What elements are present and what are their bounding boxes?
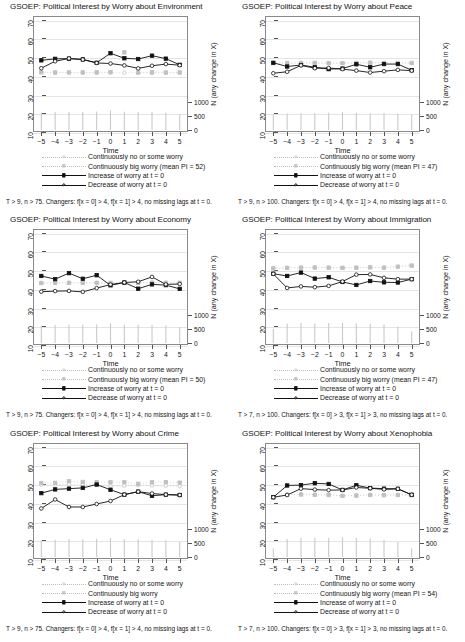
right-tick-mark bbox=[420, 343, 424, 344]
right-tick-mark bbox=[420, 329, 424, 330]
x-tick-label: 0 bbox=[109, 565, 113, 572]
x-tick-mark bbox=[152, 345, 153, 349]
chart-panel: GSOEP: Political Interest by Worry about… bbox=[232, 0, 464, 214]
x-tick-mark bbox=[97, 132, 98, 136]
x-tick-label: −2 bbox=[79, 351, 87, 358]
x-tick-mark bbox=[315, 345, 316, 349]
legend-item-continuously-no-or-some-worry: Continuously no or some worry bbox=[272, 579, 462, 588]
x-tick-mark bbox=[166, 132, 167, 136]
x-tick-mark bbox=[398, 559, 399, 563]
x-tick-label: 4 bbox=[164, 565, 168, 572]
panel-title: GSOEP: Political Interest by Worry about… bbox=[242, 215, 464, 224]
legend-label: Continuously big worry (mean PI = 54) bbox=[320, 590, 437, 597]
legend-key-icon bbox=[40, 598, 88, 607]
right-tick-label: 0 bbox=[426, 340, 430, 347]
x-tick-label: 0 bbox=[341, 351, 345, 358]
legend-item-continuously-big-worry: Continuously big worry (mean PI = 47) bbox=[272, 161, 462, 170]
legend-key-icon bbox=[40, 589, 88, 598]
x-tick-label: 1 bbox=[354, 565, 358, 572]
x-tick-mark bbox=[370, 559, 371, 563]
legend-key-icon bbox=[272, 384, 320, 393]
x-tick-label: 3 bbox=[150, 138, 154, 145]
chart-panel: GSOEP: Political Interest by Worry about… bbox=[232, 427, 464, 641]
legend-label: Decrease of worry at t = 0 bbox=[88, 394, 167, 401]
right-tick-label: 500 bbox=[194, 540, 205, 547]
x-tick-label: −3 bbox=[65, 351, 73, 358]
x-tick-label: −3 bbox=[65, 138, 73, 145]
legend-item-decrease-of-worry: Decrease of worry at t = 0 bbox=[40, 393, 230, 402]
legend: Continuously no or some worryContinuousl… bbox=[40, 365, 230, 403]
legend-key-icon bbox=[40, 180, 88, 189]
panel-title: GSOEP: Political Interest by Worry about… bbox=[10, 2, 232, 11]
right-tick-mark bbox=[188, 315, 192, 316]
right-tick-mark bbox=[188, 343, 192, 344]
right-axis-label: N (any change in X) bbox=[206, 16, 220, 132]
right-axis-label-text: N (any change in X) bbox=[441, 469, 450, 533]
legend-label: Increase of worry at t = 0 bbox=[320, 385, 396, 392]
x-tick-mark bbox=[69, 345, 70, 349]
legend-key-icon bbox=[40, 152, 88, 161]
legend-item-increase-of-worry: Increase of worry at t = 0 bbox=[272, 384, 462, 393]
legend-label: Increase of worry at t = 0 bbox=[320, 172, 396, 179]
right-tick-mark bbox=[420, 315, 424, 316]
x-tick-mark bbox=[180, 132, 181, 136]
x-tick-label: 3 bbox=[150, 351, 154, 358]
x-tick-label: −3 bbox=[297, 138, 305, 145]
legend-label: Increase of worry at t = 0 bbox=[88, 385, 164, 392]
x-tick-label: −3 bbox=[297, 351, 305, 358]
x-tick-label: 5 bbox=[178, 138, 182, 145]
series-layer bbox=[33, 16, 188, 132]
legend-label: Continuously no or some worry bbox=[320, 366, 415, 373]
x-tick-mark bbox=[152, 559, 153, 563]
x-tick-mark bbox=[41, 559, 42, 563]
legend-item-decrease-of-worry: Decrease of worry at t = 0 bbox=[272, 607, 462, 616]
x-tick-mark bbox=[124, 559, 125, 563]
x-tick-mark bbox=[55, 132, 56, 136]
x-tick-label: 2 bbox=[368, 351, 372, 358]
legend-item-increase-of-worry: Increase of worry at t = 0 bbox=[272, 171, 462, 180]
y-axis: 70605040302010 bbox=[246, 229, 264, 345]
right-tick-label: 500 bbox=[426, 326, 437, 333]
x-tick-label: 0 bbox=[109, 138, 113, 145]
legend: Continuously no or some worryContinuousl… bbox=[40, 152, 230, 190]
x-tick-mark bbox=[412, 132, 413, 136]
x-tick-mark bbox=[180, 345, 181, 349]
x-tick-mark bbox=[152, 132, 153, 136]
right-tick-mark bbox=[188, 557, 192, 558]
right-axis-label: N (any change in X) bbox=[438, 229, 452, 345]
x-tick-label: −4 bbox=[283, 351, 291, 358]
x-tick-mark bbox=[398, 132, 399, 136]
x-tick-mark bbox=[384, 345, 385, 349]
x-tick-mark bbox=[315, 132, 316, 136]
x-tick-label: 4 bbox=[164, 351, 168, 358]
x-tick-label: 4 bbox=[396, 351, 400, 358]
legend-label: Increase of worry at t = 0 bbox=[320, 599, 396, 606]
x-tick-mark bbox=[138, 345, 139, 349]
x-tick-label: −4 bbox=[283, 565, 291, 572]
legend-key-icon bbox=[272, 365, 320, 374]
right-tick-mark bbox=[420, 130, 424, 131]
x-tick-mark bbox=[83, 132, 84, 136]
x-tick-label: 2 bbox=[136, 138, 140, 145]
legend-key-icon bbox=[272, 162, 320, 171]
x-tick-label: 3 bbox=[382, 351, 386, 358]
right-axis-label: N (any change in X) bbox=[438, 443, 452, 559]
x-tick-mark bbox=[97, 559, 98, 563]
x-tick-mark bbox=[111, 559, 112, 563]
legend-key-icon bbox=[272, 375, 320, 384]
legend-item-continuously-big-worry: Continuously big worry (mean PI = 52) bbox=[40, 161, 230, 170]
x-tick-label: −4 bbox=[51, 565, 59, 572]
x-tick-label: −1 bbox=[325, 351, 333, 358]
x-tick-label: 5 bbox=[178, 565, 182, 572]
x-tick-mark bbox=[180, 559, 181, 563]
x-tick-label: −5 bbox=[37, 565, 45, 572]
x-tick-label: −2 bbox=[79, 138, 87, 145]
x-tick-label: 2 bbox=[368, 138, 372, 145]
x-tick-mark bbox=[384, 559, 385, 563]
legend-label: Continuously no or some worry bbox=[320, 153, 415, 160]
legend-item-continuously-no-or-some-worry: Continuously no or some worry bbox=[40, 365, 230, 374]
x-tick-label: −3 bbox=[297, 565, 305, 572]
chart-panel: GSOEP: Political Interest by Worry about… bbox=[232, 213, 464, 427]
right-tick-mark bbox=[420, 529, 424, 530]
legend-key-icon bbox=[40, 171, 88, 180]
